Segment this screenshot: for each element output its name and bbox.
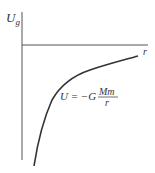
y-axis-label-subscript: g (15, 17, 20, 27)
formula-numerator: Mm (98, 86, 115, 97)
potential-curve (34, 56, 138, 166)
formula-denominator: r (105, 97, 109, 108)
x-axis-label: r (143, 46, 147, 57)
potential-energy-graph: Ug r U = −G Mm r (0, 0, 155, 173)
y-axis-label: Ug (6, 10, 20, 27)
formula-lhs: U = −G (60, 90, 96, 102)
